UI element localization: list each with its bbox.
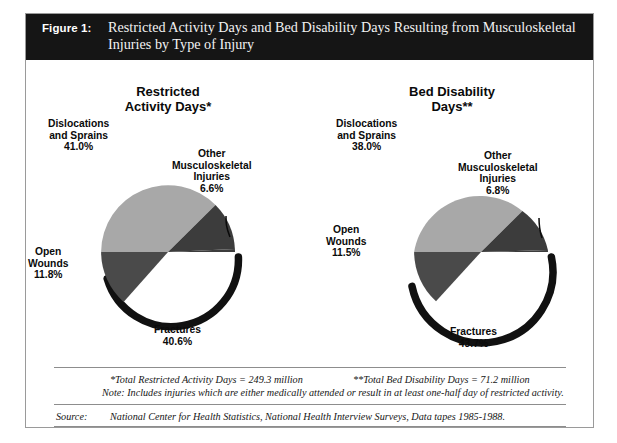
- pie-label-dislocations: Dislocations and Sprains 41.0%: [48, 118, 109, 153]
- pie-label-dislocations-b: Dislocations and Sprains 38.0%: [336, 118, 397, 153]
- chart-restricted-activity-days: RestrictedActivity Days*: [26, 60, 310, 370]
- source-divider-bottom: [54, 426, 566, 427]
- figure-title: Restricted Activity Days and Bed Disabil…: [108, 19, 578, 53]
- source-divider-top: [54, 404, 566, 405]
- source-text: National Center for Health Statistics, N…: [110, 411, 505, 422]
- notes-divider: [54, 367, 566, 368]
- pie-slices-restricted: [101, 185, 238, 326]
- pie-label-other: Other Musculoskeletal Injuries 6.6%: [172, 148, 252, 194]
- pie-label-fractures-b: Fractures 43.7%: [450, 326, 497, 349]
- source-label: Source:: [56, 411, 87, 422]
- pie-svg-bed: [310, 60, 594, 370]
- footnote-restricted-total: *Total Restricted Activity Days = 249.3 …: [110, 374, 303, 385]
- general-note: Note: Includes injuries which are either…: [102, 387, 564, 398]
- figure-title-bar: Figure 1: Restricted Activity Days and B…: [26, 14, 593, 60]
- chart-bed-disability-days: Bed DisabilityDays** Dislocations an: [310, 60, 594, 370]
- pie-restricted-activity-days: Dislocations and Sprains 41.0% Other Mus…: [26, 60, 310, 370]
- pie-label-other-b: Other Musculoskeletal Injuries 6.8%: [458, 150, 538, 196]
- pie-label-open-wounds: Open Wounds 11.8%: [28, 246, 68, 281]
- pie-label-fractures: Fractures 40.6%: [154, 324, 201, 347]
- pie-bed-disability-days: Dislocations and Sprains 38.0% Other Mus…: [310, 60, 594, 370]
- figure-frame: Figure 1: Restricted Activity Days and B…: [25, 13, 594, 428]
- figure-number: Figure 1:: [42, 22, 91, 34]
- footnote-bed-total: **Total Bed Disability Days = 71.2 milli…: [353, 374, 530, 385]
- pie-label-open-wounds-b: Open Wounds 11.5%: [326, 224, 366, 259]
- pie-slices-bed: [412, 196, 553, 343]
